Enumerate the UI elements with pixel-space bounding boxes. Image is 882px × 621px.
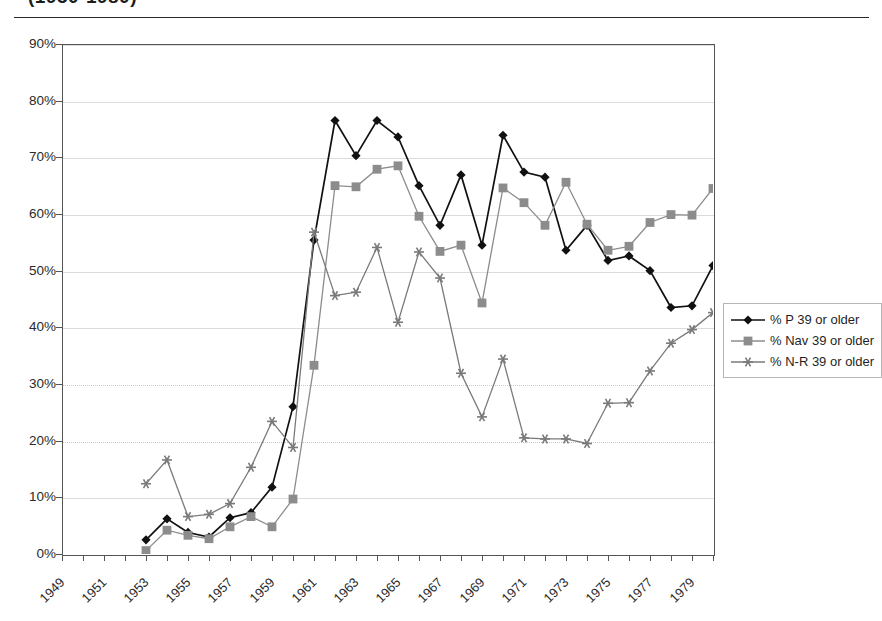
x-axis-label: 1961 <box>289 575 320 606</box>
gridline <box>63 328 714 329</box>
gridline <box>63 215 714 216</box>
y-axis-label: 30% <box>0 376 56 391</box>
chart-legend: % P 39 or older% Nav 39 or older% N-R 39… <box>723 303 882 378</box>
gridline <box>63 442 714 443</box>
x-axis-label: 1969 <box>457 575 488 606</box>
header-divider <box>14 17 869 18</box>
y-axis-label: 50% <box>0 263 56 278</box>
x-axis-label: 1977 <box>625 575 656 606</box>
gridline <box>63 498 714 499</box>
x-axis-label: 1955 <box>163 575 194 606</box>
x-axis-label: 1959 <box>247 575 278 606</box>
x-axis-label: 1963 <box>331 575 362 606</box>
chart-page: (1950-1980) 0%10%20%30%40%50%60%70%80%90… <box>0 0 882 621</box>
legend-item-nav[interactable]: % Nav 39 or older <box>728 330 874 351</box>
gridline <box>63 102 714 103</box>
figure-caption: (1950-1980) <box>28 0 137 8</box>
y-axis-label: 10% <box>0 489 56 504</box>
x-axis-label: 1975 <box>583 575 614 606</box>
y-axis-label: 0% <box>0 546 56 561</box>
line-chart: 0%10%20%30%40%50%60%70%80%90% 1949195119… <box>0 30 882 590</box>
x-axis-label: 1953 <box>121 575 152 606</box>
plot-area <box>62 44 715 556</box>
legend-label: % N-R 39 or older <box>770 354 874 369</box>
x-axis-label: 1949 <box>37 575 68 606</box>
x-axis-label: 1979 <box>667 575 698 606</box>
legend-label: % P 39 or older <box>770 312 859 327</box>
x-axis-label: 1971 <box>499 575 530 606</box>
legend-swatch-star-icon <box>728 354 768 370</box>
gridline <box>63 45 714 46</box>
y-axis-label: 60% <box>0 206 56 221</box>
y-axis-label: 70% <box>0 149 56 164</box>
x-axis-label: 1965 <box>373 575 404 606</box>
y-axis-label: 90% <box>0 36 56 51</box>
data-point-star <box>743 357 753 366</box>
legend-label: % Nav 39 or older <box>770 333 874 348</box>
y-axis-label: 80% <box>0 93 56 108</box>
legend-swatch-square-icon <box>728 333 768 349</box>
y-axis-label: 40% <box>0 319 56 334</box>
legend-swatch-diamond-icon <box>728 312 768 328</box>
x-axis-label: 1957 <box>205 575 236 606</box>
gridline <box>63 272 714 273</box>
y-axis-label: 20% <box>0 433 56 448</box>
legend-item-nr[interactable]: % N-R 39 or older <box>728 351 874 372</box>
data-point-square <box>744 336 753 345</box>
x-axis-label: 1951 <box>79 575 110 606</box>
data-point-diamond <box>743 315 752 324</box>
gridline <box>63 385 714 386</box>
gridline <box>63 158 714 159</box>
x-axis-label: 1967 <box>415 575 446 606</box>
x-axis-label: 1973 <box>541 575 572 606</box>
legend-item-p[interactable]: % P 39 or older <box>728 309 874 330</box>
